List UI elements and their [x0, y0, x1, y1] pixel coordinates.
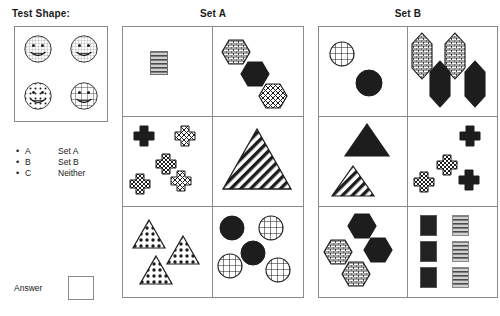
set-a-cell-r2c1 — [123, 117, 213, 207]
cross-checker — [129, 173, 151, 195]
circle-grid — [265, 257, 291, 283]
set-b-grid — [318, 26, 498, 298]
legend-bullet-icon: • — [16, 157, 25, 168]
legend: • A Set A • B Set B • C Neither — [16, 146, 116, 179]
set-b-cell-r1c1 — [319, 27, 408, 117]
circle-grid — [258, 215, 284, 241]
rectangle-black — [420, 241, 437, 262]
set-a-cell-r2c2 — [213, 117, 303, 207]
set-b-cell-r2c1 — [319, 117, 408, 207]
hexagon-brick — [341, 261, 371, 287]
cross-black — [459, 125, 481, 147]
rectangle-hlines — [452, 267, 469, 288]
test-shape-item-4 — [69, 81, 99, 111]
legend-bullet-icon: • — [16, 146, 25, 157]
circle-black — [219, 215, 245, 241]
circle-grid — [329, 41, 355, 67]
cross-black — [133, 125, 155, 147]
triangle-diagonal-stripes — [221, 127, 293, 191]
triangle-dots — [139, 255, 173, 285]
set-b-cell-r1c2 — [408, 27, 497, 117]
legend-key-b: B — [25, 157, 58, 168]
cross-outline — [174, 125, 196, 147]
legend-row-b: • B Set B — [16, 157, 116, 168]
set-b-cell-r3c2 — [408, 207, 497, 297]
set-a-cell-r3c1 — [123, 207, 213, 297]
circle-black — [240, 240, 266, 266]
tall-hexagon-black — [464, 60, 486, 108]
set-a-title: Set A — [122, 8, 304, 19]
set-b-title: Set B — [318, 8, 498, 19]
legend-value-c: Neither — [58, 168, 85, 179]
hexagon-black — [347, 213, 377, 239]
legend-key-c: C — [25, 168, 58, 179]
set-a-cell-r1c2 — [213, 27, 303, 117]
set-a-cell-r3c2 — [213, 207, 303, 297]
rectangle-black — [420, 267, 437, 288]
test-shape-box — [14, 26, 108, 122]
hexagon-black — [363, 237, 393, 263]
test-shape-title: Test Shape: — [12, 8, 70, 19]
cross-black — [458, 169, 480, 191]
triangle-dots — [132, 219, 166, 249]
set-b-cell-r3c1 — [319, 207, 408, 297]
test-shape-item-1 — [23, 34, 53, 64]
circle-black — [355, 69, 383, 97]
puzzle-page: Test Shape: — [0, 0, 500, 316]
set-b-cell-r2c2 — [408, 117, 497, 207]
circle-grid — [217, 253, 243, 279]
test-shape-item-2 — [69, 34, 99, 64]
rectangle-black — [420, 215, 437, 236]
cross-crosshatch — [170, 170, 192, 192]
triangle-black — [344, 123, 390, 157]
cross-checker — [413, 171, 435, 193]
cross-checker — [436, 154, 458, 176]
legend-row-c: • C Neither — [16, 168, 116, 179]
legend-value-a: Set A — [58, 146, 78, 157]
rectangle-hlines — [452, 215, 469, 236]
hexagon-crosshatch — [258, 83, 288, 109]
test-shape-item-3 — [23, 81, 53, 111]
legend-key-a: A — [25, 146, 58, 157]
tall-hexagon-black — [429, 60, 451, 108]
set-a-cell-r1c1 — [123, 27, 213, 117]
legend-row-a: • A Set A — [16, 146, 116, 157]
rectangle-hlines — [452, 241, 469, 262]
legend-bullet-icon: • — [16, 168, 25, 179]
triangle-diagonal-stripes — [331, 165, 375, 197]
answer-label: Answer — [14, 283, 42, 293]
rectangle-hlines — [150, 51, 168, 75]
legend-value-b: Set B — [58, 157, 79, 168]
set-a-grid — [122, 26, 304, 298]
answer-input-box[interactable] — [68, 276, 94, 300]
